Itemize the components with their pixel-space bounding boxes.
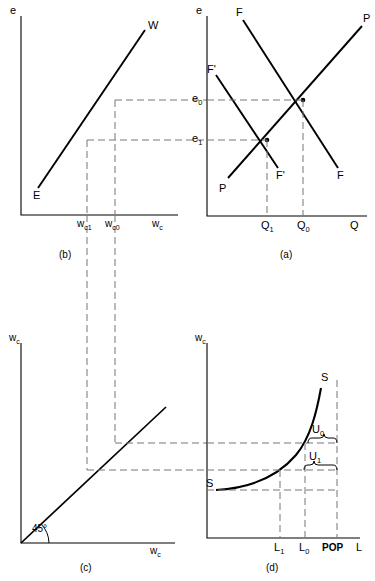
panel-b-curve-label-W: W (148, 20, 158, 31)
panel-a-curve-label-P-bottom: P (219, 183, 226, 194)
panel-d-bracket-label-U0: U0 (312, 424, 324, 438)
panel-a-curve-label-F-bottom: F (337, 170, 344, 181)
panel-a-curve-F-prime (216, 75, 278, 168)
panel-a-curve-label-F-prime-bottom: F' (276, 170, 285, 181)
panel-a-dashed-guides (207, 100, 303, 216)
panel-c-angle-label: 45° (32, 524, 47, 534)
panel-d-xtick-L0: L0 (299, 542, 309, 556)
panel-a-caption: (a) (280, 250, 292, 260)
figure-svg (0, 0, 375, 581)
panel-c-dashed-guides (87, 443, 207, 470)
panel-a-equilibrium-points (265, 98, 306, 143)
panel-c-x-axis-label: wc (150, 546, 161, 558)
panel-d-x-axis-label: L (356, 542, 362, 553)
panel-a-curve-label-F-prime-top: F' (207, 64, 216, 75)
panel-d-bracket-label-U1: U1 (309, 451, 321, 465)
panel-b-xtick-wc0: wc0 (105, 219, 120, 231)
panel-b-axes (21, 16, 178, 215)
panel-a-curve-P (228, 26, 362, 178)
panel-d-caption: (d) (266, 563, 278, 573)
figure-container: e W E wc1 wc0 wc (b) e F P F' P F' F e0 … (0, 0, 375, 581)
panel-b-curve-EW (38, 30, 145, 188)
panel-c-y-axis-label: wc (9, 333, 20, 345)
panel-c-caption: (c) (80, 563, 92, 573)
panel-a-y-axis-label: e (196, 5, 202, 16)
panel-a-ytick-e1: e1 (192, 133, 202, 147)
panel-a-x-axis-label: Q (350, 220, 359, 231)
panel-b-xtick-wc1: wc1 (77, 219, 92, 231)
panel-a-xtick-Q0: Q0 (297, 220, 310, 234)
panel-d-xtick-L1: L1 (274, 542, 284, 556)
panel-d-xtick-POP: POP (322, 543, 343, 553)
panel-a-axes (207, 16, 367, 216)
panel-d-curve-label-S-top: S (321, 372, 328, 383)
panel-a-curve-label-F-top: F (236, 7, 243, 18)
panel-d-y-axis-label: wc (195, 333, 206, 345)
panel-a-ytick-e0: e0 (192, 93, 202, 107)
panel-d-curve-S (216, 388, 321, 490)
panel-b-curve-label-E: E (33, 190, 40, 201)
panel-b-caption: (b) (59, 250, 71, 260)
panel-b-x-axis-label: wc (152, 219, 163, 231)
panel-d-curve-label-S-bottom: S (206, 478, 213, 489)
panel-b-y-axis-label: e (10, 5, 16, 16)
connector-vertical-dashed (87, 215, 115, 470)
panel-b-dashed-guides (87, 100, 207, 215)
panel-a-xtick-Q1: Q1 (261, 220, 274, 234)
panel-a-curve-label-P-top: P (363, 13, 370, 24)
